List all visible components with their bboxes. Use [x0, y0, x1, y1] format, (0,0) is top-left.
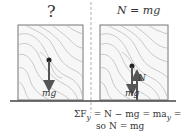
left-title: ? [47, 4, 56, 20]
normal-force-label: N [138, 74, 146, 83]
free-body-diagram: ? N = mg mg mg N ΣFy = N − mg = may = 0 … [0, 0, 182, 139]
equation-line-2: so N = mg [96, 122, 144, 131]
right-title: N = mg [117, 5, 160, 16]
weight-label-left: mg [42, 89, 56, 98]
weight-label-right: mg [125, 89, 139, 98]
sigma-f: ΣF [74, 109, 87, 119]
equation-body: = N − mg = ma [91, 109, 167, 119]
equation-line-1: ΣFy = N − mg = may = 0 [74, 110, 182, 121]
equation-end: = 0 [171, 109, 182, 119]
